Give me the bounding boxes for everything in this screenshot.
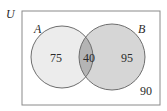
universe-label: U xyxy=(6,7,16,21)
set-b-only-count: 95 xyxy=(121,51,133,65)
intersection-count: 40 xyxy=(83,51,95,65)
venn-diagram: U A B 75 40 95 90 xyxy=(0,0,167,111)
set-b-label: B xyxy=(138,22,146,36)
outside-count: 90 xyxy=(140,84,152,98)
set-a-label: A xyxy=(33,22,42,36)
set-a-only-count: 75 xyxy=(50,51,62,65)
